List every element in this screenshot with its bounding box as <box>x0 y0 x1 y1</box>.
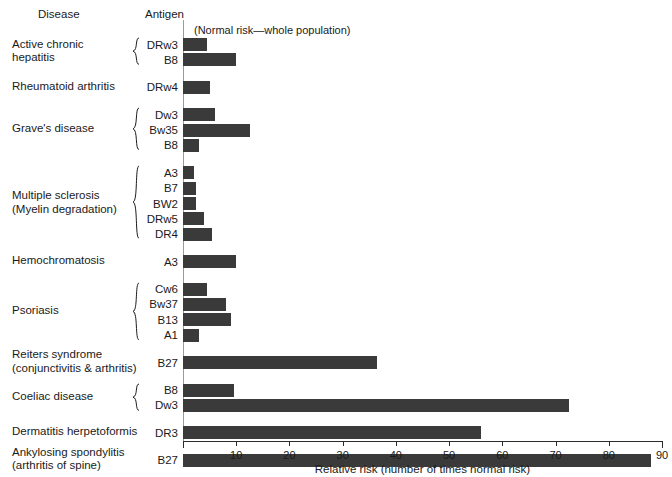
x-tick <box>502 441 503 446</box>
bar <box>183 182 196 195</box>
bar <box>183 356 377 369</box>
bar <box>183 197 196 210</box>
antigen-label: Bw37 <box>58 298 178 310</box>
x-tick <box>289 441 290 446</box>
x-tick <box>662 441 663 448</box>
bar <box>183 384 234 397</box>
antigen-label: DR4 <box>58 228 178 240</box>
group-brace <box>131 107 141 151</box>
x-tick-label: 80 <box>603 449 615 461</box>
bar <box>183 228 212 241</box>
x-tick-label: 70 <box>549 449 561 461</box>
x-tick-label: 10 <box>230 449 242 461</box>
disease-label: Reiters syndrome (conjunctivitis & arthr… <box>12 348 137 375</box>
group-brace <box>131 37 141 65</box>
group-brace <box>131 383 141 411</box>
x-tick <box>609 441 610 446</box>
x-tick <box>183 441 184 448</box>
bar <box>183 124 250 137</box>
disease-label: Ankylosing spondylitis (arthritis of spi… <box>12 446 125 473</box>
antigen-label: Dw3 <box>58 109 178 121</box>
disease-label: Rheumatoid arthritis <box>12 80 115 94</box>
disease-label: Active chronic hepatitis <box>12 38 84 65</box>
x-tick <box>343 441 344 446</box>
bar <box>183 81 210 94</box>
x-tick-label: 60 <box>496 449 508 461</box>
antigen-label: B13 <box>58 314 178 326</box>
normal-risk-annotation: (Normal risk—whole population) <box>194 24 351 36</box>
bar <box>183 313 231 326</box>
x-tick-label: 20 <box>283 449 295 461</box>
bar <box>183 108 215 121</box>
bar <box>183 329 199 342</box>
disease-label: Dermatitis herpetoformis <box>12 425 137 439</box>
bar <box>183 212 204 225</box>
x-tick <box>556 441 557 446</box>
x-tick-label: 30 <box>337 449 349 461</box>
disease-label: Multiple sclerosis (Myelin degradation) <box>12 189 117 216</box>
column-header-antigen: Antigen <box>145 8 184 20</box>
x-tick <box>449 441 450 446</box>
antigen-label: Cw6 <box>58 283 178 295</box>
bar <box>183 298 226 311</box>
x-tick <box>236 441 237 446</box>
bar <box>183 53 236 66</box>
antigen-label: A3 <box>58 167 178 179</box>
relative-risk-bar-chart: Disease Antigen (Normal risk—whole popul… <box>0 0 672 477</box>
bar <box>183 283 207 296</box>
disease-label: Hemochromatosis <box>12 254 105 268</box>
disease-label: Coeliac disease <box>12 390 93 404</box>
bar <box>183 426 481 439</box>
disease-label: Grave's disease <box>12 122 94 136</box>
x-tick-label: 40 <box>390 449 402 461</box>
antigen-label: B8 <box>58 139 178 151</box>
bar <box>183 399 569 412</box>
antigen-label: A1 <box>58 329 178 341</box>
x-tick-label: 50 <box>443 449 455 461</box>
column-header-disease: Disease <box>38 8 80 20</box>
group-brace <box>131 282 141 341</box>
x-axis-line <box>183 441 662 442</box>
bar <box>183 166 194 179</box>
bar <box>183 255 236 268</box>
group-brace <box>131 165 141 239</box>
x-tick-label: 90 <box>656 449 668 461</box>
x-axis-label: Relative risk (number of times normal ri… <box>183 463 662 475</box>
disease-label: Psoriasis <box>12 304 59 318</box>
bar <box>183 139 199 152</box>
x-tick <box>396 441 397 446</box>
bar <box>183 38 207 51</box>
